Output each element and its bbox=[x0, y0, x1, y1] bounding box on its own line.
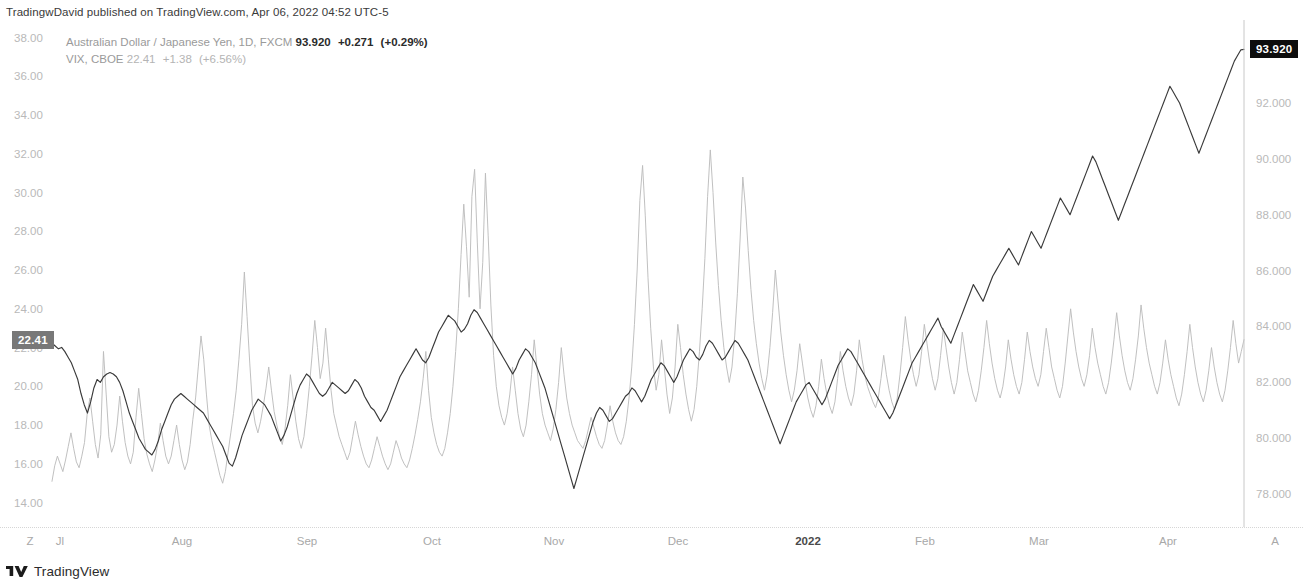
right-axis-tick-2: 88.000 bbox=[1256, 209, 1291, 221]
price-chart-canvas[interactable] bbox=[0, 0, 1304, 581]
tradingview-logo[interactable]: TradingView bbox=[6, 564, 109, 579]
left-axis-tick-5: 28.00 bbox=[14, 225, 43, 237]
right-axis-tick-1: 90.000 bbox=[1256, 153, 1291, 165]
left-axis-tick-4: 30.00 bbox=[14, 187, 43, 199]
left-axis-tick-7: 24.00 bbox=[14, 303, 43, 315]
time-axis-tick-11: A bbox=[1271, 535, 1279, 547]
time-axis-tick-2: Aug bbox=[172, 535, 192, 547]
left-axis-tick-0: 38.00 bbox=[14, 32, 43, 44]
left-axis-tick-12: 14.00 bbox=[14, 497, 43, 509]
tradingview-wordmark: TradingView bbox=[34, 564, 109, 579]
left-axis-tick-9: 20.00 bbox=[14, 380, 43, 392]
right-axis-tick-3: 86.000 bbox=[1256, 265, 1291, 277]
tradingview-mark-icon bbox=[6, 565, 28, 578]
time-axis-tick-5: Nov bbox=[544, 535, 564, 547]
left-axis-tick-10: 18.00 bbox=[14, 419, 43, 431]
time-axis-tick-4: Oct bbox=[423, 535, 441, 547]
time-axis-tick-0: Z bbox=[26, 535, 33, 547]
time-axis-tick-9: Mar bbox=[1029, 535, 1049, 547]
time-axis-tick-10: Apr bbox=[1159, 535, 1177, 547]
right-axis-tick-7: 78.000 bbox=[1256, 488, 1291, 500]
time-axis-tick-1: Jl bbox=[56, 535, 64, 547]
audjpy-price-badge: 93.920 bbox=[1250, 40, 1298, 58]
series-line-vix bbox=[52, 150, 1244, 483]
time-axis-tick-7: 2022 bbox=[795, 535, 821, 547]
left-axis-tick-6: 26.00 bbox=[14, 264, 43, 276]
time-axis-tick-6: Dec bbox=[668, 535, 688, 547]
right-axis-tick-0: 92.000 bbox=[1256, 97, 1291, 109]
left-axis-tick-1: 36.00 bbox=[14, 70, 43, 82]
vix-price-badge: 22.41 bbox=[12, 331, 54, 349]
time-axis-tick-8: Feb bbox=[915, 535, 935, 547]
left-axis-tick-11: 16.00 bbox=[14, 458, 43, 470]
right-axis-tick-4: 84.000 bbox=[1256, 320, 1291, 332]
right-axis-tick-5: 82.000 bbox=[1256, 376, 1291, 388]
right-axis-tick-6: 80.000 bbox=[1256, 432, 1291, 444]
left-axis-tick-2: 34.00 bbox=[14, 109, 43, 121]
time-axis-tick-3: Sep bbox=[297, 535, 317, 547]
left-axis-tick-3: 32.00 bbox=[14, 148, 43, 160]
